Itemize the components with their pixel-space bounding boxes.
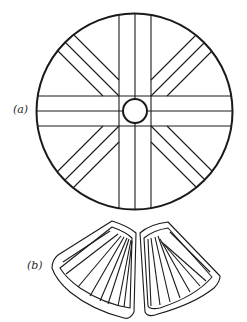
vertical-strip-bottom xyxy=(119,123,151,215)
part-b-fan xyxy=(52,221,220,318)
diagonal-strip-top-left xyxy=(40,31,119,96)
part-a-disc xyxy=(30,0,240,215)
diagonal-strip-bottom-left xyxy=(40,126,119,191)
fan-right-half xyxy=(140,222,220,316)
diagram-svg xyxy=(0,0,247,322)
diagonal-strip-top-right xyxy=(151,31,230,96)
fan-left-half xyxy=(52,221,136,318)
horizontal-strip-left xyxy=(30,96,123,126)
horizontal-strip-right xyxy=(147,96,240,126)
label-b: (b) xyxy=(27,259,43,272)
label-a: (a) xyxy=(13,103,28,116)
diagonal-strip-bottom-right xyxy=(151,126,230,191)
hub-circle xyxy=(123,99,147,123)
